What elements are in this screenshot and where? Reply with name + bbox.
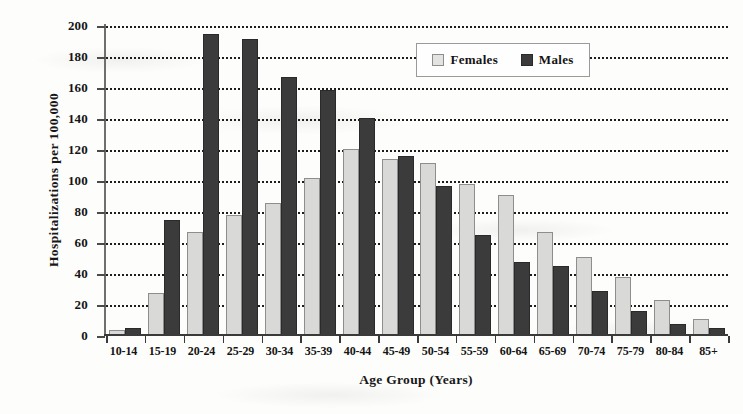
x-tick [573, 336, 575, 343]
bar-group [689, 24, 728, 334]
legend-item-females: Females [432, 52, 498, 68]
y-tick [97, 181, 105, 183]
bar-females [459, 184, 475, 334]
x-tick [300, 336, 302, 343]
legend-label-females: Females [450, 52, 498, 68]
bar-females [576, 257, 592, 334]
bar-males [164, 220, 180, 334]
x-tick-label: 45-49 [377, 344, 416, 362]
bar-males [398, 156, 414, 334]
x-tick-label: 50-54 [416, 344, 455, 362]
y-tick [97, 305, 105, 307]
x-tick [728, 336, 730, 343]
y-tick [97, 119, 105, 121]
y-tick [97, 57, 105, 59]
x-tick [106, 336, 108, 343]
y-tick-label: 60 [42, 235, 88, 251]
y-tick [97, 274, 105, 276]
x-tick [689, 336, 691, 343]
x-tick [456, 336, 458, 343]
y-tick-label: 20 [42, 297, 88, 313]
bar-females [382, 159, 398, 334]
x-tick [262, 336, 264, 343]
bar-males [125, 328, 141, 334]
bar-group [611, 24, 650, 334]
bar-males [203, 34, 219, 334]
bar-males [475, 235, 491, 334]
bar-females [654, 300, 670, 334]
x-tick-label: 70-74 [572, 344, 611, 362]
y-tick [97, 212, 105, 214]
x-tick [223, 336, 225, 343]
x-tick [417, 336, 419, 343]
x-tick [650, 336, 652, 343]
bar-group [378, 24, 417, 334]
x-tick [495, 336, 497, 343]
y-tick-label: 80 [42, 204, 88, 220]
legend-swatch-females-icon [432, 54, 444, 66]
x-tick [534, 336, 536, 343]
bar-males [709, 328, 725, 334]
y-tick-label: 200 [42, 18, 88, 34]
x-tick [378, 336, 380, 343]
bar-males [359, 118, 375, 334]
bar-males [436, 186, 452, 334]
bar-females [265, 203, 281, 334]
bar-group [145, 24, 184, 334]
x-tick-label: 55-59 [455, 344, 494, 362]
bar-females [148, 293, 164, 334]
bar-females [615, 277, 631, 334]
x-tick-label: 15-19 [143, 344, 182, 362]
bar-males [631, 311, 647, 334]
x-tick [339, 336, 341, 343]
x-tick-label: 80-84 [650, 344, 689, 362]
x-tick-label: 35-39 [299, 344, 338, 362]
bar-females [420, 163, 436, 335]
chart-page: Hospitalizations per 100,000 02040608010… [0, 0, 743, 414]
x-tick-label: 65-69 [533, 344, 572, 362]
bar-males [592, 291, 608, 334]
x-tick-label: 30-34 [260, 344, 299, 362]
y-tick-label: 40 [42, 266, 88, 282]
x-tick [145, 336, 147, 343]
bar-group [223, 24, 262, 334]
y-tick-label: 180 [42, 49, 88, 65]
y-tick [97, 150, 105, 152]
x-tick [184, 336, 186, 343]
bar-females [109, 330, 125, 334]
x-tick-label: 75-79 [611, 344, 650, 362]
bar-females [187, 232, 203, 334]
y-tick-label: 100 [42, 173, 88, 189]
bar-group [650, 24, 689, 334]
bar-females [693, 319, 709, 334]
chart-legend: Females Males [416, 43, 590, 77]
bar-group [300, 24, 339, 334]
legend-swatch-males-icon [521, 54, 533, 66]
bar-males [670, 324, 686, 334]
bar-females [343, 149, 359, 334]
bar-females [304, 178, 320, 334]
bar-females [226, 215, 242, 334]
x-tick-label: 20-24 [182, 344, 221, 362]
x-tick-label: 85+ [689, 344, 728, 362]
y-tick [97, 26, 105, 28]
bar-group [106, 24, 145, 334]
y-tick-label: 160 [42, 80, 88, 96]
x-axis-tick-labels: 10-1415-1920-2425-2930-3435-3940-4445-49… [104, 344, 728, 362]
bar-males [514, 262, 530, 334]
x-tick-label: 40-44 [338, 344, 377, 362]
x-tick-label: 60-64 [494, 344, 533, 362]
bar-group [184, 24, 223, 334]
x-tick-label: 10-14 [104, 344, 143, 362]
bar-males [553, 266, 569, 334]
bar-males [281, 77, 297, 334]
legend-item-males: Males [521, 52, 574, 68]
y-tick [97, 88, 105, 90]
y-tick-label: 0 [42, 328, 88, 344]
bar-group [339, 24, 378, 334]
legend-label-males: Males [539, 52, 574, 68]
x-axis-title: Age Group (Years) [104, 372, 728, 388]
y-tick [97, 243, 105, 245]
x-tick-label: 25-29 [221, 344, 260, 362]
bar-males [242, 39, 258, 335]
